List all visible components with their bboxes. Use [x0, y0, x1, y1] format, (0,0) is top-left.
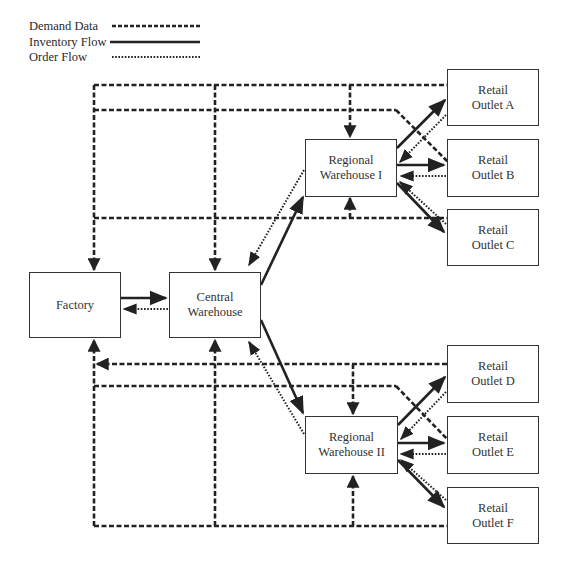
retail-outlet-b-label-1: Retail: [478, 153, 508, 168]
retail-outlet-e-label-2: Outlet E: [472, 445, 514, 460]
regional-warehouse-1-node: Regional Warehouse I: [305, 139, 397, 197]
retail-outlet-b-label-2: Outlet B: [472, 168, 515, 183]
legend-swatches: [110, 26, 200, 57]
central-warehouse-node: Central Warehouse: [169, 272, 261, 338]
legend-order-flow: Order Flow: [29, 50, 87, 64]
retail-outlet-d-node: Retail Outlet D: [447, 345, 539, 403]
regional-warehouse-2-label-2: Warehouse II: [318, 445, 385, 460]
regional-warehouse-2-node: Regional Warehouse II: [305, 416, 398, 474]
central-warehouse-label-1: Central: [197, 290, 234, 305]
retail-outlet-f-label-2: Outlet F: [472, 516, 513, 531]
retail-outlet-d-label-1: Retail: [478, 359, 508, 374]
retail-outlet-a-node: Retail Outlet A: [447, 69, 539, 126]
retail-outlet-a-label-2: Outlet A: [472, 98, 515, 113]
legend-demand-data: Demand Data: [29, 19, 98, 33]
regional-warehouse-1-label-2: Warehouse I: [320, 168, 383, 183]
regional-warehouse-2-label-1: Regional: [329, 430, 374, 445]
factory-node: Factory: [29, 272, 121, 338]
retail-outlet-e-label-1: Retail: [478, 430, 508, 445]
retail-outlet-f-node: Retail Outlet F: [447, 487, 539, 544]
factory-label: Factory: [56, 298, 94, 313]
retail-outlet-c-label-1: Retail: [478, 223, 508, 238]
retail-outlet-e-node: Retail Outlet E: [447, 416, 539, 474]
regional-warehouse-1-label-1: Regional: [328, 153, 373, 168]
retail-outlet-f-label-1: Retail: [478, 501, 508, 516]
central-warehouse-label-2: Warehouse: [187, 305, 242, 320]
retail-outlet-c-node: Retail Outlet C: [447, 209, 539, 266]
retail-outlet-c-label-2: Outlet C: [472, 238, 515, 253]
retail-outlet-d-label-2: Outlet D: [471, 374, 514, 389]
retail-outlet-b-node: Retail Outlet B: [447, 139, 539, 197]
retail-outlet-a-label-1: Retail: [478, 83, 508, 98]
legend-inventory-flow: Inventory Flow: [29, 35, 106, 49]
